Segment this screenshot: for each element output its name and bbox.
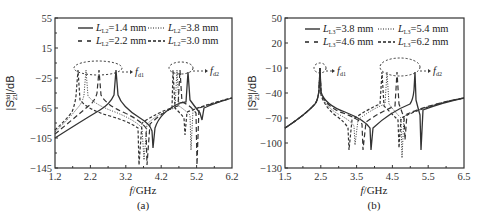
svg-text:|S21dd|/dB: |S21dd|/dB <box>4 76 18 111</box>
legend-item: LL3=6.2 mm <box>397 36 449 48</box>
caption-b: (b) <box>368 199 381 212</box>
x-tick: 5.2 <box>190 171 203 182</box>
x-tick-labels-a: 1.2 2.2 3.2 4.2 5.2 6.2 <box>48 171 238 182</box>
y-tick-labels-b: 50 20 −10 −40 −70 −100 −130 <box>260 13 282 174</box>
y-tick: −65 <box>36 103 52 114</box>
x-tick: 1.5 <box>278 171 291 182</box>
svg-text:|S21dd|/dB: |S21dd|/dB <box>246 76 260 111</box>
y-tick: 55 <box>42 13 53 24</box>
panel-b: 50 20 −10 −40 −70 −100 −130 1.5 2.5 3.5 … <box>246 13 471 212</box>
arrow-icon <box>332 69 335 73</box>
x-tick: 3.5 <box>350 171 363 182</box>
x-tick: 2.2 <box>84 171 97 182</box>
fd2-label-a: fd2 <box>210 65 219 77</box>
y-tick: −10 <box>266 63 282 74</box>
y-tick: 20 <box>272 38 283 49</box>
x-tick: 3.2 <box>119 171 132 182</box>
legend-item: LL3=3.8 mm <box>322 23 374 35</box>
caption-a: (a) <box>137 199 150 212</box>
arrow-icon <box>130 70 133 74</box>
legend-item: LL3=5.4 mm <box>397 23 449 35</box>
y-tick: −70 <box>266 113 282 124</box>
legend-item: LL3=4.6 mm <box>322 36 374 48</box>
x-tick: 1.2 <box>48 171 61 182</box>
y-tick: −105 <box>30 133 52 144</box>
x-tick: 4.5 <box>386 171 399 182</box>
y-tick-labels-a: 55 15 −25 −65 −105 −145 <box>30 13 52 174</box>
x-tick: 2.5 <box>314 171 327 182</box>
y-axis-label-b: |S21dd|/dB <box>246 76 260 111</box>
x-tick-labels-b: 1.5 2.5 3.5 4.5 5.5 6.5 <box>278 171 470 182</box>
legend-item: LL2=3.8 mm <box>167 22 219 34</box>
x-axis-label-b: f/GHz <box>361 184 388 196</box>
y-tick: 15 <box>42 43 53 54</box>
x-tick: 6.5 <box>457 171 470 182</box>
figure: 55 15 −25 −65 −105 −145 1.2 2.2 3.2 4.2 … <box>0 0 486 221</box>
x-tick: 6.2 <box>225 171 238 182</box>
x-tick: 5.5 <box>422 171 435 182</box>
fd2-label-b: fd2 <box>433 65 442 77</box>
fd1-label-a: fd1 <box>135 66 144 78</box>
legend-b: LL3=3.8 mm LL3=5.4 mm LL3=4.6 mm LL3=6.2… <box>305 23 449 48</box>
y-tick: −40 <box>266 88 282 99</box>
arrow-icon <box>205 69 208 73</box>
legend-item: LL2=2.2 mm <box>95 35 147 47</box>
arrow-icon <box>428 69 431 73</box>
legend-item: LL2=1.4 mm <box>95 22 147 34</box>
y-tick: −100 <box>260 138 282 149</box>
y-axis-label-a: |S21dd|/dB <box>4 76 18 111</box>
legend-a: LL2=1.4 mm LL2=3.8 mm LL2=2.2 mm LL2=3.0… <box>78 22 219 47</box>
x-tick: 4.2 <box>155 171 168 182</box>
fd1-label-b: fd1 <box>337 65 346 77</box>
x-axis-label-a: f/GHz <box>130 184 157 196</box>
panel-a: 55 15 −25 −65 −105 −145 1.2 2.2 3.2 4.2 … <box>4 13 239 212</box>
y-tick: 50 <box>272 13 283 24</box>
legend-item: LL2=3.0 mm <box>167 35 219 47</box>
y-tick: −25 <box>36 73 52 84</box>
